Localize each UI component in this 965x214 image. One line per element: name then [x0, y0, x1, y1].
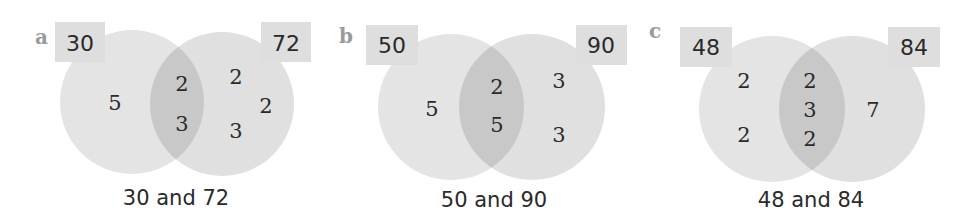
- right-only-factor: 3: [552, 69, 565, 93]
- right-only-factor: 7: [866, 98, 879, 122]
- left-only-factor: 5: [108, 91, 121, 115]
- left-only-factor: 2: [737, 123, 750, 147]
- panel-b: b 50 90 5 2 5 3 3 50 and 90: [339, 24, 627, 212]
- common-factor: 2: [803, 69, 816, 93]
- panel-a: a 30 72 5 2 3 2 2 3 30 and 72: [35, 22, 311, 210]
- caption: 50 and 90: [441, 188, 547, 212]
- right-number: 84: [900, 35, 928, 60]
- common-factor: 5: [490, 113, 503, 137]
- common-factor: 3: [175, 112, 188, 136]
- left-number: 30: [66, 31, 94, 56]
- venn-diagrams-figure: a 30 72 5 2 3 2 2 3 30 and 72 b 50 90 5 …: [0, 0, 965, 214]
- left-only-factor: 2: [737, 69, 750, 93]
- right-only-factor: 3: [229, 119, 242, 143]
- right-number: 90: [587, 33, 615, 58]
- common-factor: 2: [175, 72, 188, 96]
- panel-letter: c: [649, 19, 661, 43]
- right-only-factor: 2: [259, 94, 272, 118]
- caption: 30 and 72: [123, 186, 229, 210]
- panel-letter: a: [35, 25, 48, 49]
- right-number: 72: [272, 31, 300, 56]
- caption: 48 and 84: [758, 188, 864, 212]
- common-factor: 2: [803, 127, 816, 151]
- panel-c: c 48 84 2 2 2 3 2 7 48 and 84: [649, 19, 940, 212]
- common-factor: 3: [803, 98, 816, 122]
- right-only-factor: 3: [552, 123, 565, 147]
- left-number: 50: [378, 33, 406, 58]
- common-factor: 2: [490, 75, 503, 99]
- panel-letter: b: [339, 24, 353, 48]
- left-only-factor: 5: [425, 97, 438, 121]
- left-number: 48: [692, 35, 720, 60]
- right-only-factor: 2: [229, 65, 242, 89]
